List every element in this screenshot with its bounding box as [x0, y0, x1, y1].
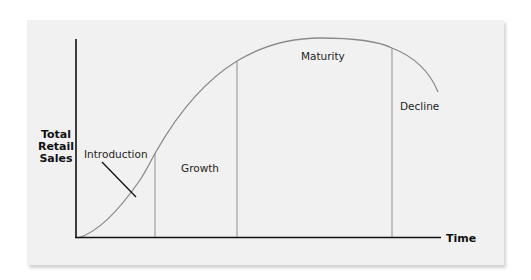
life-cycle-diagram: Introduction Growth Maturity Decline Tot… [0, 0, 531, 280]
y-axis-label-line-3: Sales [39, 152, 73, 165]
stage-label-maturity: Maturity [301, 50, 345, 62]
x-axis-label: Time [446, 232, 476, 245]
stage-label-decline: Decline [400, 100, 439, 112]
introduction-pointer [102, 162, 136, 197]
stage-label-growth: Growth [181, 162, 219, 174]
sales-curve [78, 38, 438, 238]
stage-label-introduction: Introduction [84, 148, 148, 160]
